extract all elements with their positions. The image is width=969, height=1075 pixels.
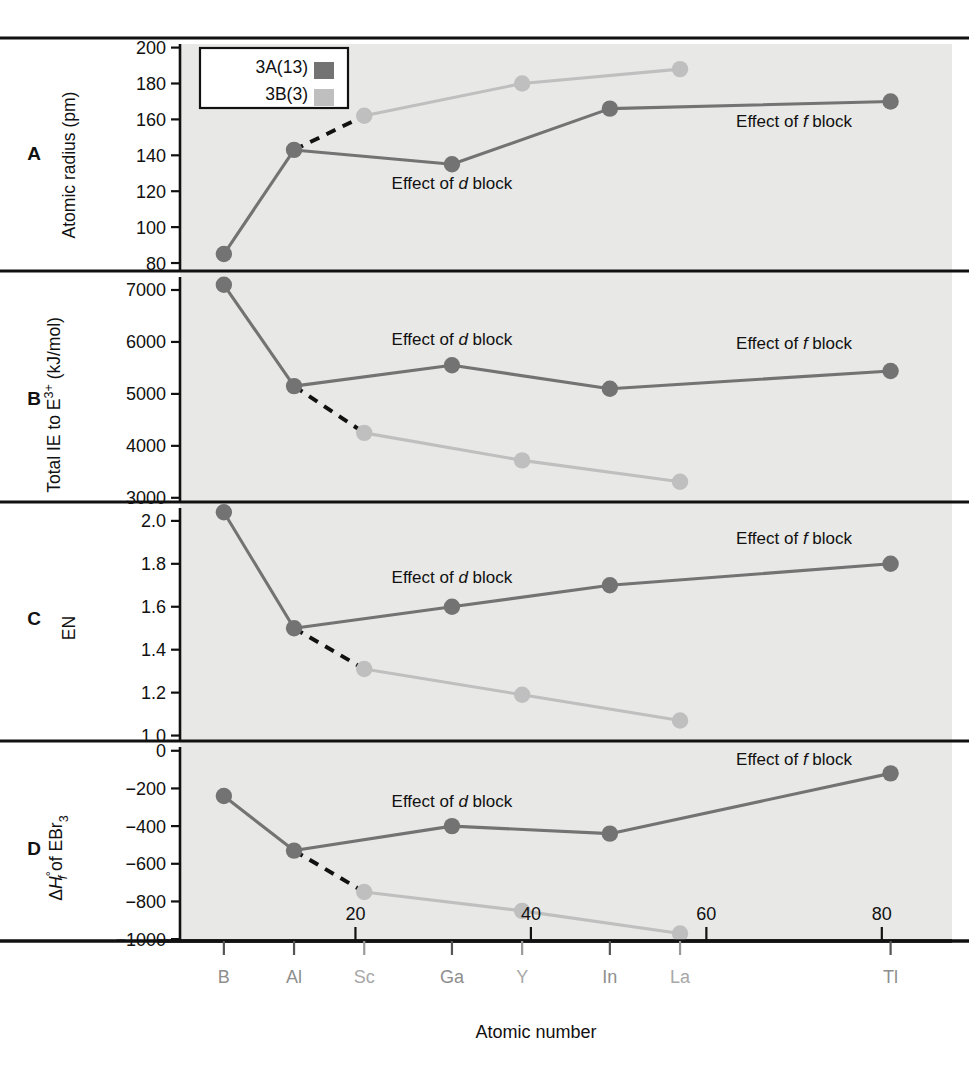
panel-letter-B: B <box>27 388 41 409</box>
data-point-A-La <box>672 61 688 77</box>
x-tick-label-60: 60 <box>696 904 716 924</box>
x-element-label-In: In <box>602 967 617 987</box>
data-point-D-In <box>602 825 618 841</box>
y-tick-label-C-4: 1.8 <box>141 554 166 574</box>
y-axis-title-B: Total IE to E3+ (kJ/mol) <box>42 317 64 493</box>
data-point-A-Y <box>514 75 530 91</box>
y-tick-label-A-3: 140 <box>136 146 166 166</box>
data-point-B-Y <box>514 452 530 468</box>
annotation-f-block-C: Effect of f block <box>736 529 852 548</box>
y-axis-title-text-A: Atomic radius (pm) <box>59 92 79 239</box>
annotation-d-block-C: Effect of d block <box>392 568 513 587</box>
data-point-C-La <box>672 712 688 728</box>
plot-background <box>180 44 952 941</box>
y-axis-title-text-B: Total IE to E3+ (kJ/mol) <box>42 317 64 493</box>
y-tick-label-B-2: 5000 <box>126 384 166 404</box>
data-point-D-Ga <box>444 818 460 834</box>
annotation-d-block-B: Effect of d block <box>392 330 513 349</box>
legend: 3A(13)3B(3) <box>200 48 348 108</box>
data-point-B-B <box>216 277 232 293</box>
y-tick-label-D-1: −800 <box>125 892 166 912</box>
x-element-label-Al: Al <box>286 967 302 987</box>
y-tick-label-D-4: −200 <box>125 779 166 799</box>
x-element-label-Sc: Sc <box>354 967 375 987</box>
y-tick-label-B-3: 6000 <box>126 332 166 352</box>
y-ticks-C: 1.01.21.41.61.82.0 <box>141 511 180 746</box>
legend-label-0: 3A(13) <box>255 57 308 77</box>
panel-letter-A: A <box>27 143 41 164</box>
multi-panel-line-chart: 80100120140160180200AAtomic radius (pm)E… <box>0 0 969 1075</box>
data-point-B-La <box>672 473 688 489</box>
legend-label-1: 3B(3) <box>265 84 308 104</box>
x-element-label-Tl: Tl <box>883 967 898 987</box>
annotation-d-block-A: Effect of d block <box>392 174 513 193</box>
data-point-A-Al <box>286 142 302 158</box>
data-point-C-Ga <box>444 599 460 615</box>
legend-swatch-0 <box>314 62 334 79</box>
y-axis-title-C: EN <box>59 616 79 640</box>
y-axis-title-text-C: EN <box>59 616 79 640</box>
x-element-label-La: La <box>670 967 691 987</box>
x-element-label-Y: Y <box>516 967 528 987</box>
data-point-B-Al <box>286 378 302 394</box>
x-tick-label-20: 20 <box>345 904 365 924</box>
y-tick-label-A-5: 180 <box>136 74 166 94</box>
element-ticks: BAlScGaYInLaTl <box>218 941 898 987</box>
y-tick-label-C-2: 1.4 <box>141 640 166 660</box>
y-tick-label-B-4: 7000 <box>126 280 166 300</box>
data-point-A-Tl <box>882 93 898 109</box>
y-ticks-B: 30004000500060007000 <box>126 280 180 508</box>
y-tick-label-A-1: 100 <box>136 218 166 238</box>
annotation-f-block-D: Effect of f block <box>736 750 852 769</box>
y-tick-label-C-5: 2.0 <box>141 511 166 531</box>
data-point-B-Ga <box>444 357 460 373</box>
data-point-A-In <box>602 100 618 116</box>
x-tick-label-40: 40 <box>521 904 541 924</box>
x-element-label-B: B <box>218 967 230 987</box>
y-tick-label-B-0: 3000 <box>126 488 166 508</box>
data-point-C-In <box>602 577 618 593</box>
data-point-B-Tl <box>882 363 898 379</box>
y-ticks-A: 80100120140160180200 <box>136 38 180 273</box>
x-axis-title: Atomic number <box>475 1022 596 1042</box>
y-ticks-D: −1000−800−600−400−2000 <box>115 741 180 949</box>
y-axis-title-text-D: ΔH°f of EBr3 <box>44 815 71 900</box>
data-point-D-B <box>216 788 232 804</box>
y-tick-label-A-2: 120 <box>136 182 166 202</box>
data-point-B-Sc <box>356 425 372 441</box>
data-point-A-Ga <box>444 156 460 172</box>
y-axis-title-D: ΔH°f of EBr3 <box>44 815 71 900</box>
panel-letter-C: C <box>27 608 41 629</box>
annotation-f-block-B: Effect of f block <box>736 334 852 353</box>
x-tick-label-80: 80 <box>872 904 892 924</box>
data-point-D-La <box>672 925 688 941</box>
annotation-d-block-D: Effect of d block <box>392 792 513 811</box>
annotation-f-block-A: Effect of f block <box>736 112 852 131</box>
y-tick-label-D-5: 0 <box>156 741 166 761</box>
y-tick-label-B-1: 4000 <box>126 436 166 456</box>
data-point-B-In <box>602 381 618 397</box>
panel-letter-D: D <box>27 838 41 859</box>
data-point-D-Sc <box>356 884 372 900</box>
y-tick-label-A-4: 160 <box>136 110 166 130</box>
y-axis-title-A: Atomic radius (pm) <box>59 92 79 239</box>
data-point-C-Al <box>286 620 302 636</box>
y-tick-label-C-1: 1.2 <box>141 683 166 703</box>
data-point-C-Y <box>514 687 530 703</box>
data-point-C-Sc <box>356 661 372 677</box>
chart-svg: 80100120140160180200AAtomic radius (pm)E… <box>0 0 969 1075</box>
y-tick-label-C-3: 1.6 <box>141 597 166 617</box>
y-tick-label-D-2: −600 <box>125 854 166 874</box>
data-point-A-B <box>216 246 232 262</box>
data-point-D-Tl <box>882 765 898 781</box>
legend-swatch-1 <box>314 89 334 106</box>
data-point-A-Sc <box>356 108 372 124</box>
plot-area-background <box>180 44 952 941</box>
data-point-C-B <box>216 504 232 520</box>
y-tick-label-D-3: −400 <box>125 817 166 837</box>
data-point-C-Tl <box>882 556 898 572</box>
y-tick-label-A-6: 200 <box>136 38 166 58</box>
x-element-label-Ga: Ga <box>440 967 465 987</box>
data-point-D-Al <box>286 842 302 858</box>
